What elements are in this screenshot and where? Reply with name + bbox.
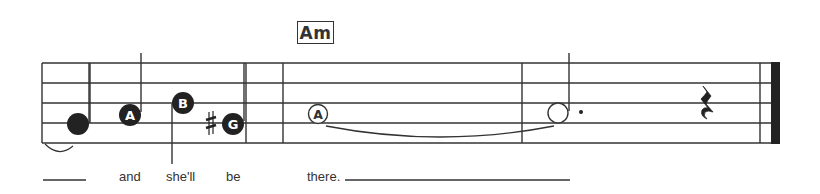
- music-staff-score: A B G A: [0, 0, 820, 194]
- tie-arc-start: [45, 144, 73, 152]
- lyric-word: there.: [307, 169, 340, 184]
- note-b: B: [172, 92, 194, 164]
- note-g: G: [222, 63, 244, 135]
- svg-text:A: A: [125, 108, 135, 123]
- tie-arc: [326, 126, 554, 137]
- lyric-word: and: [119, 169, 141, 184]
- staff-lines: [42, 63, 771, 143]
- lyric-word: she'll: [166, 169, 195, 184]
- note-a-whole: A: [309, 105, 328, 124]
- note-1: [67, 63, 89, 135]
- lyric-word: be: [226, 169, 240, 184]
- svg-text:G: G: [228, 117, 239, 132]
- barline-final-thick: [771, 62, 780, 144]
- note-a-1: A: [119, 53, 141, 126]
- chord-symbol: Am: [297, 21, 334, 44]
- svg-text:B: B: [178, 96, 188, 111]
- svg-text:A: A: [313, 107, 323, 122]
- dot-icon: [579, 110, 583, 114]
- chord-label: Am: [300, 23, 332, 43]
